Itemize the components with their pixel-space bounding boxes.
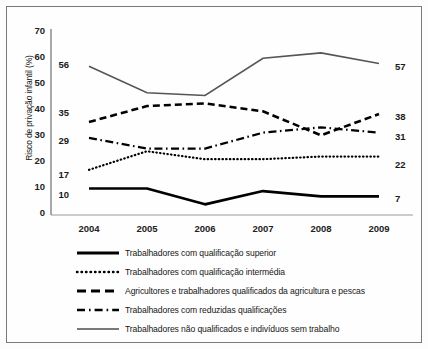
legend-swatch-solid-thin (75, 323, 121, 335)
series-line-intermediate (89, 151, 379, 170)
legend-label-intermediate: Trabalhadores com qualificação intermédi… (125, 267, 285, 277)
series-line-superior (89, 188, 379, 204)
series-line-agriculture (89, 103, 379, 135)
legend-label-agriculture: Agricultores e trabalhadores qualificado… (125, 286, 365, 296)
legend-swatch-dash-dot (75, 304, 121, 316)
legend-label-lowskill: Trabalhadores com reduzidas qualificaçõe… (125, 305, 286, 315)
plot-svg (7, 7, 423, 239)
legend-label-superior: Trabalhadores com qualificação superior (125, 248, 276, 258)
legend-item-unskilled[interactable]: Trabalhadores não qualificados e indivíd… (7, 319, 423, 338)
legend-swatch-dotted (75, 266, 121, 278)
series-line-unskilled (89, 53, 379, 96)
plot-area: Risco de privação infantil (%) 70 60 50 … (7, 7, 423, 239)
legend-item-superior[interactable]: Trabalhadores com qualificação superior (7, 243, 423, 262)
legend-label-unskilled: Trabalhadores não qualificados e indivíd… (125, 324, 339, 334)
legend-swatch-dashed (75, 285, 121, 297)
chart-legend: Trabalhadores com qualificação superior … (7, 243, 423, 343)
legend-item-agriculture[interactable]: Agricultores e trabalhadores qualificado… (7, 281, 423, 300)
chart-frame-border: Risco de privação infantil (%) 70 60 50 … (6, 6, 422, 343)
legend-item-intermediate[interactable]: Trabalhadores com qualificação intermédi… (7, 262, 423, 281)
legend-item-lowskill[interactable]: Trabalhadores com reduzidas qualificaçõe… (7, 300, 423, 319)
chart-figure: Risco de privação infantil (%) 70 60 50 … (0, 0, 428, 349)
legend-swatch-solid-thick (75, 247, 121, 259)
